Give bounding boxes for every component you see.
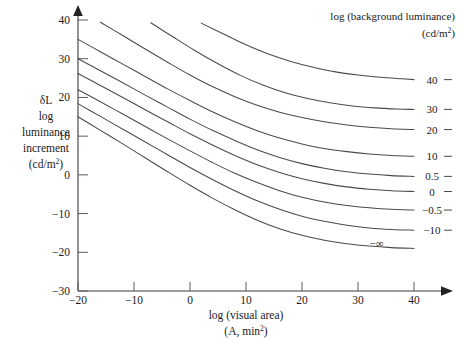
curve-label-30: 30 bbox=[427, 103, 439, 115]
y-axis-arrow-icon bbox=[73, 5, 83, 16]
y-axis-tick-labels: −30−20−10010203040 bbox=[52, 14, 70, 297]
curve-label-0: 0 bbox=[429, 186, 435, 198]
y-tick-label--30: −30 bbox=[52, 285, 70, 297]
curve-label-−0.5: −0.5 bbox=[422, 204, 442, 216]
curve-label-−∞: −∞ bbox=[369, 237, 383, 249]
y-axis-title-line-3: increment bbox=[23, 142, 70, 154]
curve-label-−10: −10 bbox=[423, 224, 441, 236]
x-tick-label--20: −20 bbox=[69, 294, 87, 306]
x-axis-title-line2-suffix: ) bbox=[264, 325, 268, 338]
curve-10 bbox=[78, 39, 414, 156]
y-axis-ticks bbox=[78, 20, 88, 291]
y-tick-label-20: 20 bbox=[59, 91, 71, 103]
x-tick-label--10: −10 bbox=[125, 294, 143, 306]
curve-40 bbox=[201, 23, 414, 80]
curve-label-20: 20 bbox=[427, 124, 439, 136]
x-axis-title-line2: (A, min2) bbox=[224, 324, 268, 338]
y-axis-title-line-0: δL bbox=[40, 94, 52, 106]
curve-series-group bbox=[78, 22, 414, 248]
curve--10 bbox=[78, 104, 414, 231]
y-tick-label-30: 30 bbox=[59, 53, 71, 65]
axes-group bbox=[73, 5, 453, 296]
y-tick-label--20: −20 bbox=[52, 246, 70, 258]
legend-title: log (background luminance) (cd/m2) bbox=[330, 10, 455, 40]
x-axis-tick-labels: −20−10010203040 bbox=[69, 294, 420, 306]
y-tick-label--10: −10 bbox=[52, 208, 70, 220]
legend-title-line2-prefix: (cd/m bbox=[422, 27, 448, 40]
x-tick-label-10: 10 bbox=[240, 294, 252, 306]
x-axis-title: log (visual area) (A, min2) bbox=[209, 309, 284, 338]
curve-label-10: 10 bbox=[427, 150, 439, 162]
curve-label-group: 403020100.50−0.5−10−∞ bbox=[369, 74, 452, 250]
y-axis-title-line-2: luminance bbox=[22, 126, 70, 138]
curve-label-0.5: 0.5 bbox=[425, 170, 439, 182]
y-tick-label-40: 40 bbox=[59, 14, 71, 26]
x-axis-ticks bbox=[78, 282, 414, 291]
x-tick-label-30: 30 bbox=[352, 294, 364, 306]
legend-title-line2: (cd/m2) bbox=[422, 26, 455, 40]
chart-page: −30−20−10010203040 −20−10010203040 40302… bbox=[0, 0, 463, 340]
legend-title-line1: log (background luminance) bbox=[330, 10, 455, 23]
y-axis-title-line-1: log bbox=[39, 110, 54, 123]
x-tick-label-0: 0 bbox=[187, 294, 193, 306]
curve-30 bbox=[151, 23, 414, 110]
curve--inf bbox=[78, 117, 414, 249]
y-axis-units-suffix: ) bbox=[59, 158, 63, 171]
y-axis-title-units: (cd/m2) bbox=[29, 157, 64, 171]
x-tick-label-20: 20 bbox=[296, 294, 308, 306]
x-axis-title-line1: log (visual area) bbox=[209, 309, 284, 322]
y-tick-label-0: 0 bbox=[64, 169, 70, 181]
y-axis-units-prefix: (cd/m bbox=[29, 158, 56, 171]
x-axis-title-line2-prefix: (A, min bbox=[224, 325, 260, 338]
x-axis-arrow-icon bbox=[441, 286, 453, 295]
x-tick-label-40: 40 bbox=[408, 294, 420, 306]
curve-label-40: 40 bbox=[427, 74, 439, 86]
luminance-increment-chart: −30−20−10010203040 −20−10010203040 40302… bbox=[0, 0, 463, 340]
curve--0.5 bbox=[78, 90, 414, 210]
y-axis-title: δL log luminance increment (cd/m2) bbox=[22, 94, 70, 171]
legend-title-line2-suffix: ) bbox=[451, 27, 455, 40]
